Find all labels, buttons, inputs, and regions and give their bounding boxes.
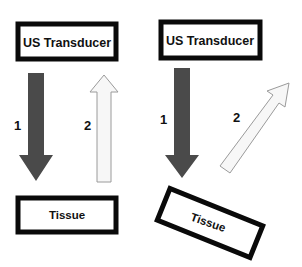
right-reflected-arrow — [220, 83, 289, 173]
right-arrow-1-label: 1 — [160, 112, 167, 127]
left-arrow-1-label: 1 — [14, 118, 21, 133]
left-reflected-arrow — [90, 75, 118, 182]
right-incident-arrow — [165, 68, 199, 178]
left-panel: US Transducer 1 2 Tissue — [14, 24, 118, 232]
right-tissue-box: Tissue — [157, 189, 262, 258]
right-arrow-2-label: 2 — [233, 110, 240, 125]
ultrasound-reflection-diagram: US Transducer 1 2 Tissue US Transducer 1… — [0, 0, 302, 267]
left-transducer-box: US Transducer — [18, 24, 116, 59]
left-tissue-label: Tissue — [49, 209, 85, 221]
left-incident-arrow — [19, 73, 53, 181]
right-transducer-box: US Transducer — [161, 22, 260, 58]
left-transducer-label: US Transducer — [23, 36, 111, 50]
left-tissue-box: Tissue — [18, 198, 116, 232]
right-transducer-label: US Transducer — [166, 34, 254, 48]
right-panel: US Transducer 1 2 Tissue — [157, 22, 289, 257]
left-arrow-2-label: 2 — [84, 118, 91, 133]
